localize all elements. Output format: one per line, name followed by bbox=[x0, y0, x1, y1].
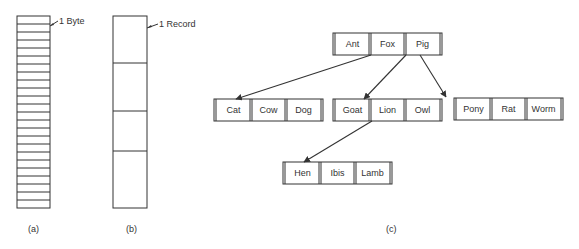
figure-canvas: 1 Byte (a) 1 Record (b) AntFoxPigCatCowD… bbox=[0, 0, 579, 249]
byte-label: 1 Byte bbox=[59, 16, 85, 26]
caption-a: (a) bbox=[28, 224, 39, 234]
key-cell: Rat bbox=[501, 104, 516, 114]
record-label: 1 Record bbox=[159, 19, 196, 29]
key-cell: Ibis bbox=[330, 168, 345, 178]
key-cell: Worm bbox=[532, 104, 556, 114]
key-cell: Cow bbox=[259, 105, 278, 115]
node-hen-ibis-lamb: HenIbisLamb bbox=[283, 162, 392, 184]
record-annotation: 1 Record bbox=[147, 19, 196, 29]
key-cell: Ant bbox=[346, 39, 360, 49]
key-cell: Owl bbox=[415, 105, 431, 115]
edge-root-to-pony bbox=[420, 55, 446, 97]
edge-goat-to-hen bbox=[304, 121, 372, 162]
key-cell: Fox bbox=[380, 39, 396, 49]
key-cell: Lamb bbox=[361, 168, 384, 178]
edge-root-to-cat bbox=[236, 55, 371, 99]
key-cell: Cat bbox=[226, 105, 241, 115]
node-goat-lion-owl: GoatLionOwl bbox=[333, 99, 442, 121]
key-cell: Pig bbox=[416, 39, 429, 49]
key-cell: Dog bbox=[295, 105, 312, 115]
key-cell: Pony bbox=[463, 104, 484, 114]
root-node: AntFoxPig bbox=[333, 33, 442, 55]
node-pony-rat-worm: PonyRatWorm bbox=[454, 98, 563, 120]
byte-annotation: 1 Byte bbox=[50, 16, 85, 26]
caption-c: (c) bbox=[386, 224, 397, 234]
node-cat-cow-dog: CatCowDog bbox=[214, 99, 323, 121]
edge-root-to-goat bbox=[364, 55, 406, 99]
key-cell: Goat bbox=[343, 105, 363, 115]
record-column bbox=[113, 16, 147, 208]
key-cell: Hen bbox=[294, 168, 311, 178]
btree: AntFoxPigCatCowDogGoatLionOwlPonyRatWorm… bbox=[214, 33, 563, 184]
key-cell: Lion bbox=[379, 105, 396, 115]
caption-b: (b) bbox=[126, 224, 137, 234]
byte-column bbox=[17, 16, 50, 208]
